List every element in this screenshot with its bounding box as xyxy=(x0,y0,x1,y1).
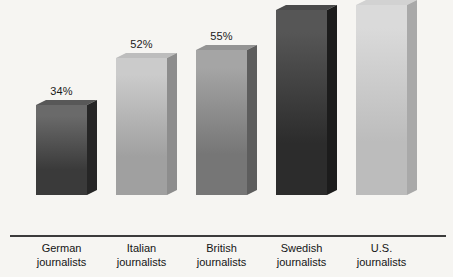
x-axis-line xyxy=(10,235,446,237)
bar-side-face-british xyxy=(247,45,257,195)
bar-3d-us xyxy=(356,0,417,195)
x-axis-label-british-line1: British xyxy=(182,241,261,255)
bar-front-face-swedish xyxy=(276,10,327,195)
x-axis-label-italian: Italian journalists xyxy=(102,241,181,269)
bar-value-label-british: 55% xyxy=(196,30,247,42)
bar-value-label-german: 34% xyxy=(36,85,87,97)
x-axis-label-german-line1: German xyxy=(22,241,101,255)
bar-column-swedish[interactable]: 70% xyxy=(276,5,337,195)
x-axis-label-british-line2: journalists xyxy=(182,255,261,269)
bar-column-italian[interactable]: 52% xyxy=(116,53,177,195)
bar-3d-swedish xyxy=(276,5,337,195)
plot-area: 34% 52% 55% xyxy=(0,0,453,237)
bar-3d-british xyxy=(196,45,257,195)
bar-column-us[interactable]: 72% xyxy=(356,0,417,195)
x-axis-label-italian-line2: journalists xyxy=(102,255,181,269)
bar-front-face-italian xyxy=(116,58,167,195)
x-axis-label-german-line2: journalists xyxy=(22,255,101,269)
x-axis-label-british: British journalists xyxy=(182,241,261,269)
bar-front-face-german xyxy=(36,105,87,195)
x-axis-label-swedish: Swedish journalists xyxy=(262,241,341,269)
bar-side-face-us xyxy=(407,0,417,195)
bar-3d-italian xyxy=(116,53,177,195)
x-axis-label-italian-line1: Italian xyxy=(102,241,181,255)
bar-side-face-german xyxy=(87,100,97,195)
x-axis-label-us: U.S. journalists xyxy=(342,241,421,269)
bar-value-label-italian: 52% xyxy=(116,38,167,50)
bar-chart: 34% 52% 55% xyxy=(0,0,453,277)
bar-value-label-swedish: 70% xyxy=(276,0,327,2)
x-axis-label-us-line1: U.S. xyxy=(342,241,421,255)
x-axis-label-german: German journalists xyxy=(22,241,101,269)
x-axis-label-us-line2: journalists xyxy=(342,255,421,269)
x-axis-label-swedish-line1: Swedish xyxy=(262,241,341,255)
bar-front-face-british xyxy=(196,50,247,195)
bar-side-face-italian xyxy=(167,53,177,195)
x-axis-label-swedish-line2: journalists xyxy=(262,255,341,269)
bar-3d-german xyxy=(36,100,97,195)
bar-front-face-us xyxy=(356,5,407,195)
bar-column-british[interactable]: 55% xyxy=(196,45,257,195)
bar-side-face-swedish xyxy=(327,5,337,195)
bar-column-german[interactable]: 34% xyxy=(36,100,97,195)
